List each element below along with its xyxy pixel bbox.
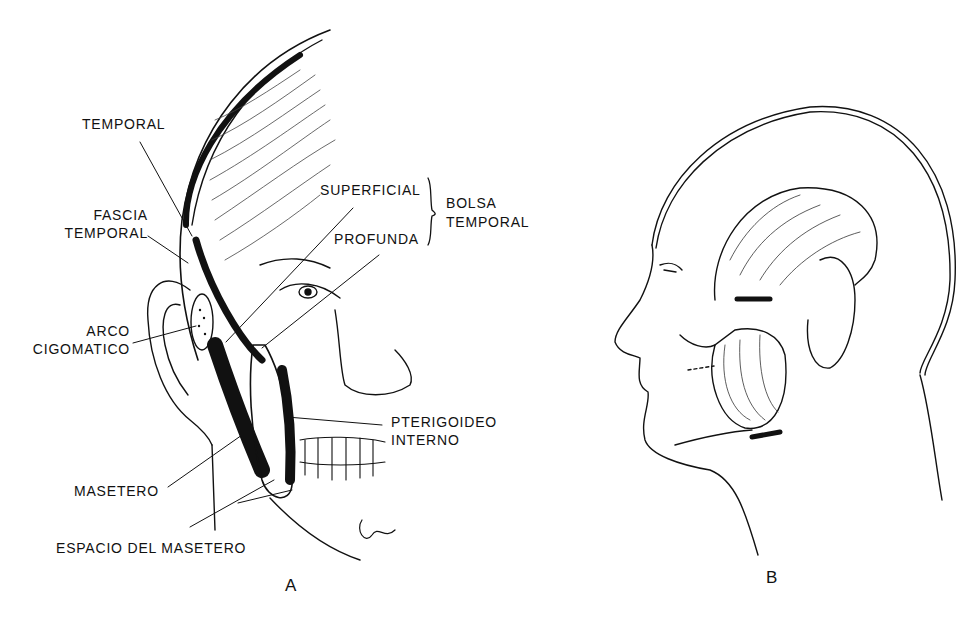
label-masetero: MASETERO — [74, 483, 159, 500]
label-espacio-del-masetero: ESPACIO DEL MASETERO — [56, 540, 246, 557]
label-fascia-temporal-line1: FASCIA — [78, 207, 148, 224]
anatomy-illustration — [0, 0, 980, 619]
panel-letter-b: B — [766, 568, 777, 588]
label-fascia-temporal-line2: TEMPORAL — [58, 225, 148, 242]
panel-a-drawing — [133, 30, 435, 560]
label-superficial: SUPERFICIAL — [320, 182, 421, 199]
label-pterigoideo-interno-line1: PTERIGOIDEO — [391, 414, 497, 431]
label-profunda: PROFUNDA — [334, 231, 419, 248]
label-arco-line1: ARCO — [40, 323, 130, 340]
label-bolsa-temporal-line1: BOLSA — [446, 195, 497, 212]
panel-b-drawing — [615, 107, 955, 555]
label-temporal: TEMPORAL — [82, 116, 165, 133]
label-pterigoideo-interno-line2: INTERNO — [391, 432, 460, 449]
panel-letter-a: A — [285, 576, 296, 596]
label-arco-cigomatico-line2: CIGOMATICO — [30, 341, 130, 358]
label-bolsa-temporal-line2: TEMPORAL — [446, 214, 529, 231]
